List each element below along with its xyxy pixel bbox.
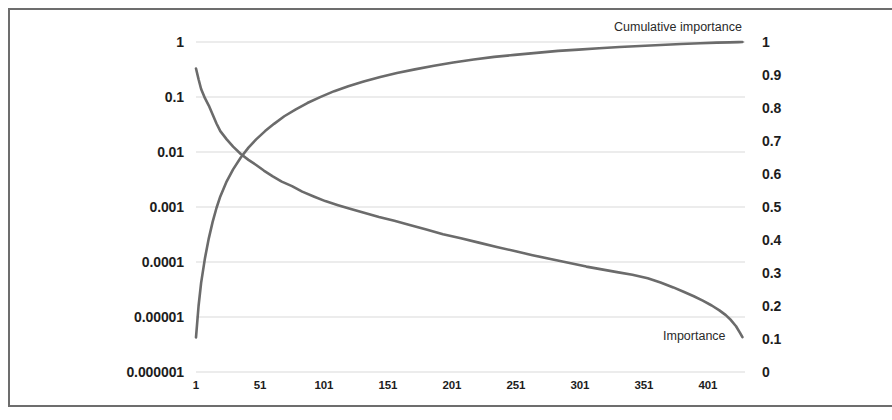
y-right-tick-label: 0.2	[762, 298, 781, 314]
y-left-tick-label: 0.01	[157, 144, 184, 160]
y-right-tick-label: 0.6	[762, 166, 781, 182]
y-left-tick-label: 1	[176, 34, 184, 50]
y-right-tick-label: 0.8	[762, 100, 781, 116]
data-series	[196, 42, 742, 337]
x-tick-label: 151	[379, 379, 398, 391]
y-right-tick-label: 0.1	[762, 331, 781, 347]
y-left-tick-label: 0.001	[149, 199, 184, 215]
series-line-importance	[196, 68, 742, 337]
y-left-tick-label: 0.000001	[126, 364, 184, 380]
y-left-tick-label: 0.00001	[134, 309, 184, 325]
y-right-tick-label: 1	[762, 34, 770, 50]
x-tick-label: 201	[442, 379, 461, 391]
y-left-tick-label: 0.0001	[142, 254, 184, 270]
series-line-cumulative-importance	[196, 42, 742, 337]
y-right-tick-label: 0.3	[762, 265, 781, 281]
x-tick-label: 1	[193, 379, 199, 391]
y-right-tick-label: 0	[762, 364, 770, 380]
y-left-tick-label: 0.1	[165, 89, 184, 105]
x-tick-label: 101	[315, 379, 334, 391]
x-tick-label: 251	[506, 379, 525, 391]
x-tick-label: 301	[570, 379, 589, 391]
x-tick-label: 351	[634, 379, 653, 391]
y-right-tick-label: 0.4	[762, 232, 781, 248]
importance-annotation: Importance	[663, 329, 726, 343]
cumulative-importance-annotation: Cumulative importance	[614, 20, 742, 34]
x-tick-label: 401	[698, 379, 717, 391]
y-right-tick-label: 0.9	[762, 67, 781, 83]
x-tick-label: 51	[254, 379, 267, 391]
y-right-tick-label: 0.7	[762, 133, 781, 149]
gridlines	[196, 42, 745, 372]
y-right-tick-label: 0.5	[762, 199, 781, 215]
